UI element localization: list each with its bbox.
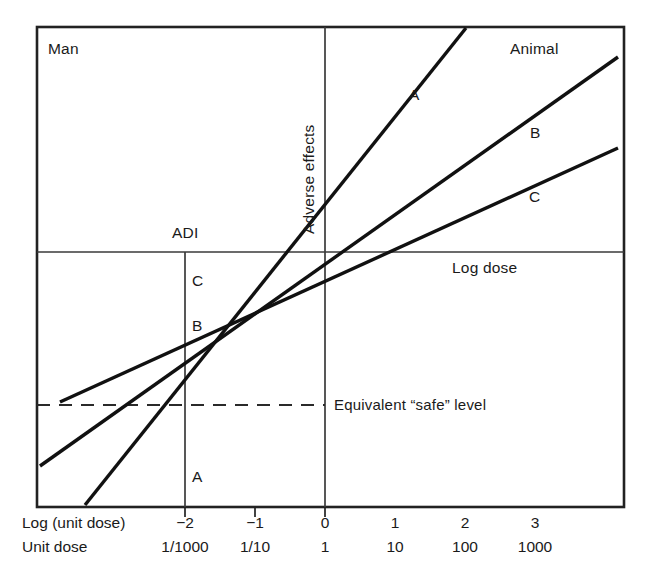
x-tick-label-unit-1-10: 1/10 <box>240 538 270 556</box>
x-tick-label-log-0: 0 <box>321 514 330 532</box>
dose-response-figure: Man Animal ADI Adverse effects Log dose … <box>0 0 651 576</box>
x-tick-label-unit-1-1000: 1/1000 <box>161 538 208 556</box>
x-tick-label-log--1: −1 <box>246 514 264 532</box>
series-label-c-upper: C <box>529 188 540 206</box>
equivalent-safe-level-label: Equivalent “safe” level <box>334 396 486 413</box>
x-tick-label-unit-1000: 1000 <box>518 538 552 556</box>
x-tick-label-unit-1: 1 <box>321 538 330 556</box>
quadrant-label-animal: Animal <box>510 40 559 58</box>
row-key-log-unit-dose: Log (unit dose) <box>22 514 125 532</box>
series-label-b-lower: B <box>192 317 203 335</box>
x-tick-label-log-1: 1 <box>391 514 400 532</box>
row-key-unit-dose: Unit dose <box>22 538 87 556</box>
plot-frame <box>37 27 624 507</box>
plot-canvas <box>0 0 651 576</box>
series-label-b-upper: B <box>530 124 541 142</box>
series-label-c-lower: C <box>192 272 203 290</box>
series-label-a-lower: A <box>192 468 203 486</box>
x-tick-label-log-3: 3 <box>531 514 540 532</box>
x-tick-label-unit-100: 100 <box>452 538 478 556</box>
quadrant-label-man: Man <box>48 40 79 58</box>
x-axis-title: Log dose <box>452 259 517 277</box>
x-tick-label-log-2: 2 <box>461 514 470 532</box>
adi-label: ADI <box>172 224 198 242</box>
x-tick-label-log--2: −2 <box>176 514 194 532</box>
x-tick-label-unit-10: 10 <box>386 538 403 556</box>
y-axis-title: Adverse effects <box>300 124 318 234</box>
series-label-a-upper: A <box>409 86 420 104</box>
